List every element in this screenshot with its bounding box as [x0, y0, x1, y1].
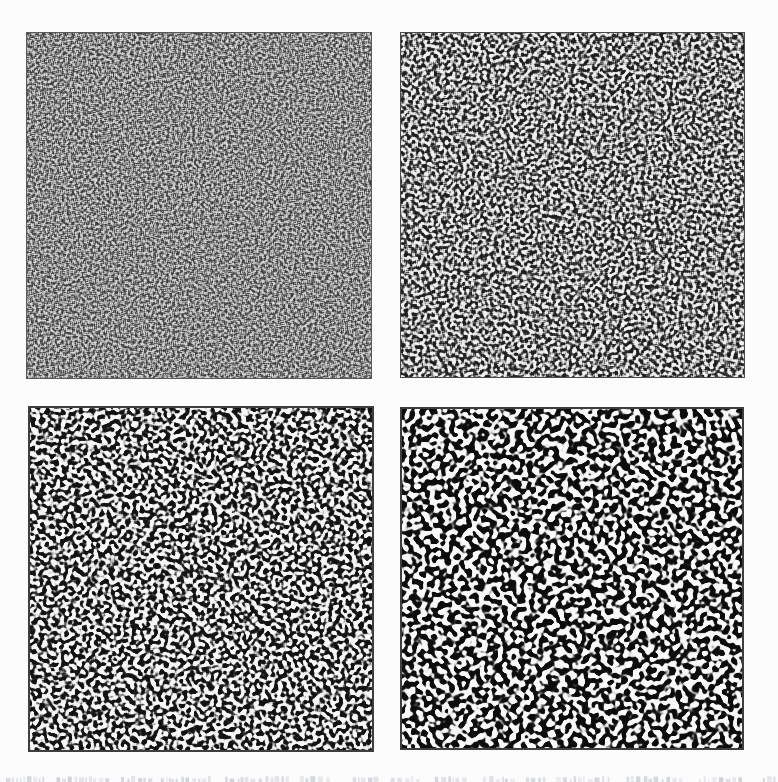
labyrinth-pattern-canvas-bottom-right — [402, 409, 742, 748]
labyrinth-pattern-canvas-top-right — [401, 33, 744, 377]
pattern-panel-top-left — [26, 32, 372, 379]
four-panel-figure — [0, 0, 778, 782]
pattern-panel-bottom-left — [28, 406, 374, 752]
cropped-caption-text-fragment — [0, 772, 778, 782]
pattern-panel-top-right — [400, 32, 745, 378]
scanned-figure-page — [0, 0, 778, 782]
pattern-panel-bottom-right — [400, 407, 744, 750]
labyrinth-pattern-canvas-top-left — [27, 33, 371, 378]
labyrinth-pattern-canvas-bottom-left — [30, 408, 372, 750]
